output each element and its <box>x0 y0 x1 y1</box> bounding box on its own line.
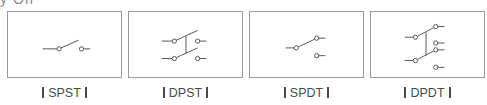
label-text: SPST <box>48 86 81 100</box>
label-spst: SPST <box>7 86 122 100</box>
label-bar-left <box>42 87 44 98</box>
switch-panel-dpdt <box>370 11 485 78</box>
label-bar-right <box>85 87 87 98</box>
label-spdt: SPDT <box>249 86 364 100</box>
label-bar-left <box>163 87 165 98</box>
label-text: DPDT <box>410 86 444 100</box>
spdt-switch-icon <box>250 12 363 77</box>
label-dpst: DPST <box>128 86 243 100</box>
label-text: SPDT <box>290 86 323 100</box>
dpst-switch-icon <box>129 12 242 77</box>
label-text: DPST <box>169 86 202 100</box>
label-bar-right <box>449 87 451 98</box>
label-dpdt: DPDT <box>370 86 485 100</box>
label-bar-left <box>284 87 286 98</box>
label-bar-right <box>327 87 329 98</box>
cropped-heading-fragment: y Off <box>0 0 34 7</box>
dpdt-switch-icon <box>371 12 484 77</box>
spst-switch-icon <box>8 12 121 77</box>
label-bar-right <box>206 87 208 98</box>
switch-panel-spst <box>7 11 122 78</box>
switch-panel-dpst <box>128 11 243 78</box>
label-bar-left <box>404 87 406 98</box>
switch-panel-spdt <box>249 11 364 78</box>
